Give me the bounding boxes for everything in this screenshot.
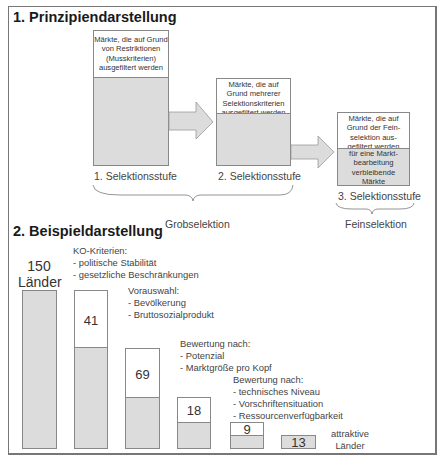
step4-criterion: - Vorschriftensituation — [233, 398, 323, 410]
start-unit: Länder — [18, 274, 60, 290]
step1-criterion: - gesetzliche Beschränkungen — [73, 269, 199, 281]
brace-fein-icon — [336, 203, 414, 214]
bar4-filtered: 9 — [230, 422, 264, 436]
step2-title: Vorauswahl: — [128, 285, 179, 297]
step1-criterion: - politische Stabilität — [73, 257, 156, 269]
bar1-filtered: 41 — [74, 290, 108, 348]
bar1-remaining — [74, 347, 108, 449]
arrow-right-icon — [291, 136, 334, 168]
bar3-filtered: 18 — [177, 397, 211, 423]
step3-criterion: - Marktgröße pro Kopf — [180, 362, 272, 374]
step4-criterion: - Ressourcenverfügbarkeit — [233, 410, 343, 422]
result-bar: 13 — [281, 435, 316, 449]
result-label-line1: attraktive — [330, 428, 370, 440]
bar1-filtered-count: 41 — [75, 313, 107, 328]
bar2-filtered-count: 69 — [126, 367, 159, 382]
step1-title: KO-Kriterien: — [73, 245, 127, 257]
result-count: 13 — [282, 435, 315, 450]
bar3-filtered-count: 18 — [178, 403, 210, 418]
step4-title: Bewertung nach: — [233, 374, 303, 386]
feinselektion-label: Feinselektion — [345, 218, 407, 230]
section2-title: 2. Beispieldarstellung — [13, 223, 163, 239]
arrow-right-icon — [169, 102, 213, 139]
result-label-line2: Länder — [330, 440, 370, 452]
bar2-filtered: 69 — [125, 348, 160, 398]
step2-criterion: - Bruttosozialprodukt — [128, 309, 214, 321]
step2-criterion: - Bevölkerung — [128, 297, 186, 309]
step3-criterion: - Potenzial — [180, 350, 224, 362]
bar3-remaining — [177, 422, 211, 449]
start-count: 150 — [18, 258, 60, 274]
bar-start — [22, 290, 57, 449]
step4-criterion: - technisches Niveau — [233, 386, 320, 398]
bar2-remaining — [125, 397, 160, 449]
step3-title: Bewertung nach: — [180, 338, 250, 350]
bar4-remaining — [230, 435, 264, 449]
grobselektion-label: Grobselektion — [165, 218, 230, 230]
brace-grob-icon — [93, 185, 293, 201]
